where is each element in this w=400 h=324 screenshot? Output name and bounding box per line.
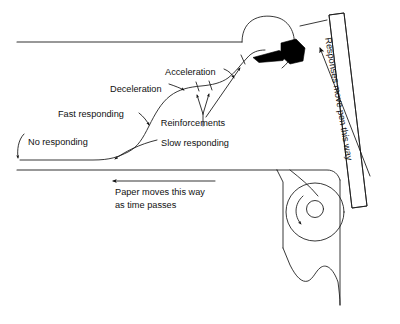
roller-outer: [286, 183, 344, 241]
label-deceleration: Deceleration: [110, 84, 162, 94]
label-paper-direction-line1: Paper moves this way: [115, 187, 205, 197]
reinforcement-leader-right: [203, 94, 209, 114]
label-fast-responding: Fast responding: [58, 109, 124, 119]
reinforcement-leader-left: [197, 95, 203, 114]
paper-right-front-edge: [277, 170, 340, 180]
label-slow-responding: Slow responding: [161, 138, 229, 148]
no-responding-leader: [18, 134, 24, 158]
paper-right-fold: [277, 170, 283, 248]
torn-paper-edge: [283, 248, 340, 305]
label-acceleration: Acceleration: [165, 67, 216, 77]
reinforcement-tick-2: [209, 81, 212, 90]
label-no-responding: No responding: [28, 137, 88, 147]
slow-responding-leader: [115, 140, 157, 159]
label-reinforcements: Reinforcements: [161, 118, 226, 128]
rail-support-line: [300, 20, 327, 26]
label-pen-direction: Responses move pen this way: [323, 37, 355, 162]
label-paper-direction-line2: as time passes: [115, 200, 177, 210]
pen-carriage-block: [281, 39, 305, 64]
deceleration-leader: [169, 84, 184, 90]
roller-hub: [307, 201, 324, 218]
cumulative-recorder-diagram: No responding Slow responding Fast respo…: [0, 0, 400, 324]
figure-canvas: No responding Slow responding Fast respo…: [0, 0, 400, 324]
fast-responding-leader: [139, 113, 149, 125]
roller-rotation-arrow: [296, 196, 303, 224]
